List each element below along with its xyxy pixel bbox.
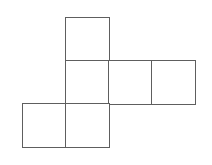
cube-net-face-3 — [108, 60, 153, 105]
cube-net-face-2 — [65, 60, 110, 105]
cube-net-face-1 — [65, 17, 110, 62]
cube-net-face-5 — [22, 103, 67, 148]
cube-net-face-6 — [65, 103, 110, 148]
cube-net-diagram — [0, 0, 212, 165]
cube-net-face-4 — [151, 60, 196, 105]
